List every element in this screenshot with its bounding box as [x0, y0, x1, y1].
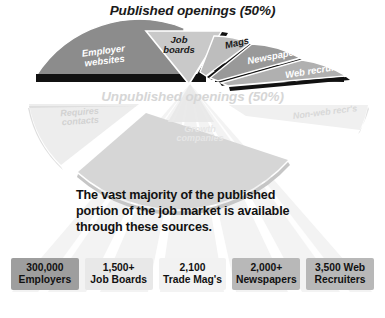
source-box-job-boards[interactable]: 1,500+Job Boards — [85, 258, 153, 290]
published-openings-title: Published openings (50%) — [0, 3, 385, 18]
unpublished-wedge-non-web-recruiters — [229, 105, 369, 134]
published-openings-group — [36, 19, 350, 91]
infographic-canvas: Published openings (50%) Unpublished ope… — [0, 0, 385, 318]
source-box-title: Trade Mag's — [163, 274, 222, 286]
source-box-number: 300,000 — [26, 262, 63, 274]
source-box-title: Newspapers — [236, 274, 297, 286]
source-box-title: Job Boards — [90, 274, 147, 286]
source-box-newspapers[interactable]: 2,000+Newspapers — [232, 258, 300, 290]
source-box-number: 1,500+ — [103, 262, 135, 274]
source-box-web-recruiters[interactable]: 3,500 WebRecruiters — [306, 258, 374, 290]
source-box-number: 3,500 Web — [315, 262, 365, 274]
source-box-employers[interactable]: 300,000Employers — [11, 258, 79, 290]
source-box-title: Recruiters — [315, 274, 366, 286]
unpublished-openings-title: Unpublished openings (50%) — [0, 89, 385, 104]
source-boxes-row: 300,000Employers1,500+Job Boards2,100Tra… — [11, 258, 374, 290]
source-box-trade-mags[interactable]: 2,100Trade Mag's — [159, 258, 227, 290]
source-box-number: 2,000+ — [250, 262, 282, 274]
source-box-number: 2,100 — [180, 262, 206, 274]
source-box-title: Employers — [19, 274, 72, 286]
summary-statement: The vast majority of the published porti… — [76, 188, 316, 236]
